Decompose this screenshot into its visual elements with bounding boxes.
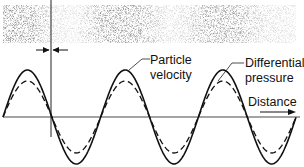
converging-arrows-icon (36, 47, 68, 53)
particle-velocity-label-line2: velocity (150, 68, 192, 82)
differential-pressure-leader (218, 63, 244, 81)
sound-wave-diagram: Particle velocity Differential pressure … (0, 0, 304, 167)
distance-arrow-icon (260, 109, 296, 115)
differential-pressure-label-line2: pressure (245, 71, 294, 85)
distance-label: Distance (248, 95, 297, 109)
particle-velocity-leader (129, 59, 150, 70)
differential-pressure-label-line1: Differential (245, 56, 304, 70)
stippled-air-density-band (3, 5, 296, 43)
particle-velocity-label-line1: Particle (150, 53, 192, 67)
